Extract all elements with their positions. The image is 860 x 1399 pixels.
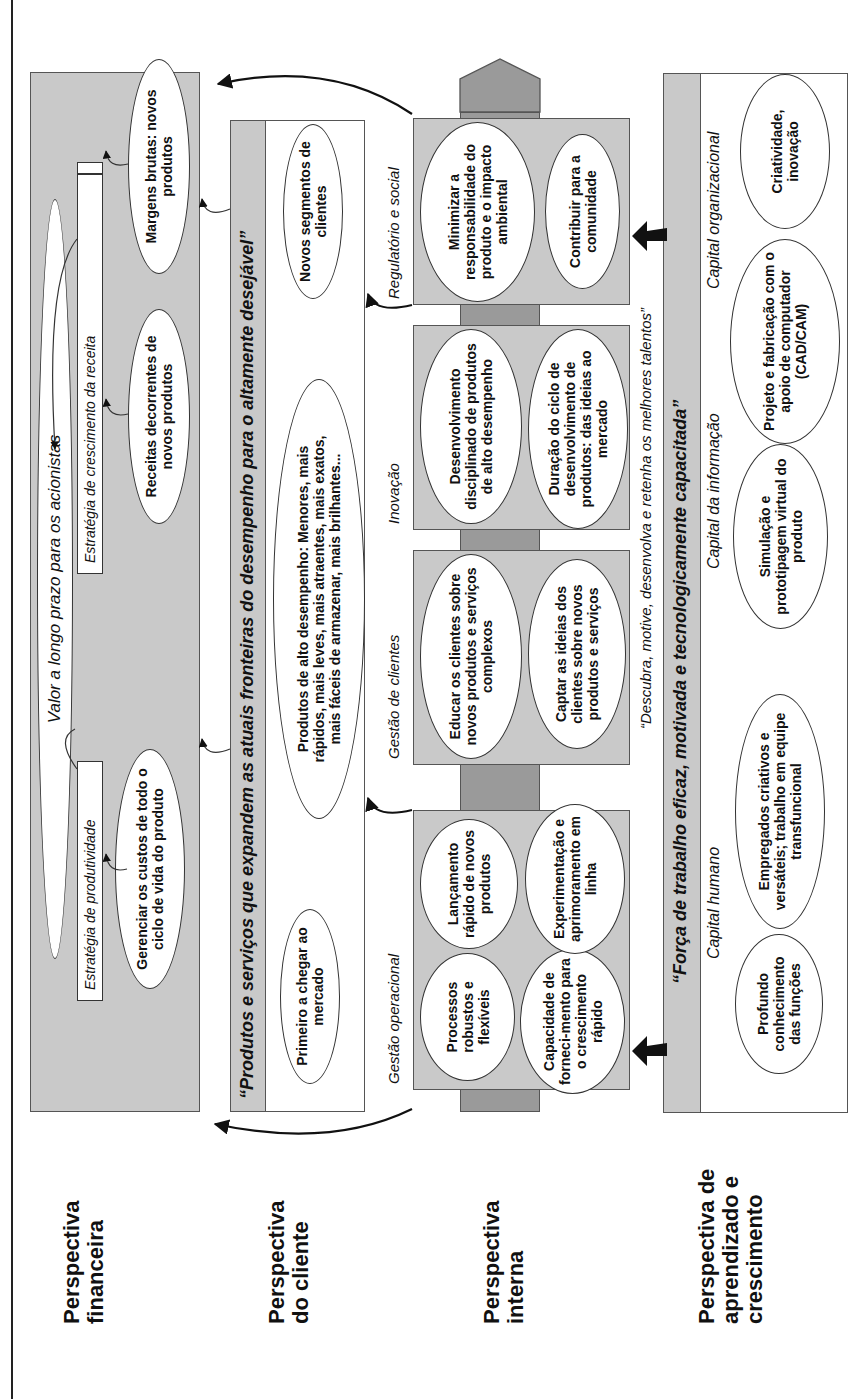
causal-arrows	[0, 0, 860, 1399]
strategy-map: Perspectiva financeira Perspectiva do cl…	[0, 0, 860, 1399]
